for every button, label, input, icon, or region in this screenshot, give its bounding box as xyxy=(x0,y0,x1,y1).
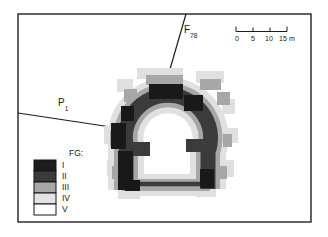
impost-ledge-right xyxy=(186,139,204,152)
figure-canvas: F78 P1 0 5 10 15 m FG: I II III IV V xyxy=(0,0,328,237)
profile-label-main: P xyxy=(58,97,65,108)
legend-title: FG: xyxy=(69,149,83,158)
legend-item-label-iv: IV xyxy=(62,193,70,204)
legend-swatch-iv xyxy=(34,193,56,204)
legend-item-label-iii: III xyxy=(62,182,69,193)
scale-bar-label-10: 10 xyxy=(265,35,273,42)
legend-swatch-v xyxy=(34,204,56,215)
legend-item-label-i: I xyxy=(62,160,64,171)
scale-bar-label-15: 15 xyxy=(279,35,287,42)
profile-label: P1 xyxy=(58,98,68,111)
legend-swatch-i xyxy=(34,160,56,171)
fault-label-sub: 78 xyxy=(190,32,197,39)
legend-swatches xyxy=(34,160,56,215)
scale-bar-label-5: 5 xyxy=(251,35,255,42)
fault-label: F78 xyxy=(184,25,197,38)
scale-bar-unit: m xyxy=(289,35,295,42)
legend-item-label-ii: II xyxy=(62,171,67,182)
legend-swatch-iii xyxy=(34,182,56,193)
scale-bar-label-0: 0 xyxy=(235,35,239,42)
impost-ledge-left xyxy=(133,142,150,156)
legend-swatch-ii xyxy=(34,171,56,182)
legend-item-label-v: V xyxy=(62,204,68,215)
profile-label-sub: 1 xyxy=(65,105,69,112)
